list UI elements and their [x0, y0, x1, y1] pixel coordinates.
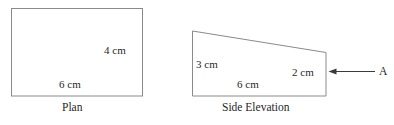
plan-width-label: 6 cm	[59, 78, 81, 90]
side-elevation-caption: Side Elevation	[222, 101, 289, 114]
annotation-arrow-icon	[329, 68, 376, 74]
side-elevation-right-height-label: 2 cm	[292, 66, 314, 78]
annotation-point-label: A	[379, 65, 387, 78]
side-elevation-left-height-label: 3 cm	[196, 58, 218, 70]
geometry-diagram: 4 cm 6 cm Plan 3 cm 2 cm 6 cm Side Eleva…	[0, 0, 394, 125]
plan-caption: Plan	[62, 101, 82, 114]
side-elevation-base-label: 6 cm	[237, 78, 259, 90]
plan-height-label: 4 cm	[104, 44, 126, 56]
